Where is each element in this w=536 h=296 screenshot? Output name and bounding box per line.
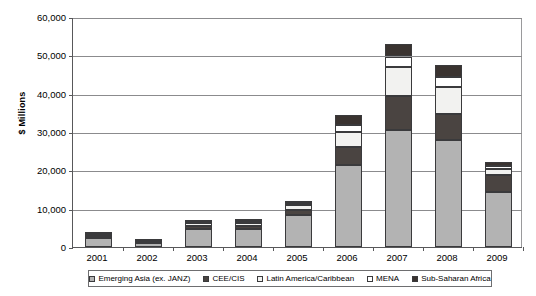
y-axis-tick-mark	[69, 56, 73, 57]
x-axis-tick-mark	[123, 247, 124, 251]
y-axis-tick-label: 30,000	[37, 127, 66, 138]
plot-area: 010,00020,00030,00040,00050,00060,000	[72, 18, 522, 248]
bar-2006	[335, 115, 362, 247]
bar-segment-emerging-asia	[235, 229, 262, 247]
bar-segment-latam	[335, 132, 362, 147]
bar-segment-mena	[485, 166, 512, 169]
bar-segment-emerging-asia	[435, 140, 462, 247]
bar-segment-emerging-asia	[385, 130, 412, 247]
legend-item-mena[interactable]: MENA	[367, 275, 399, 283]
bar-segment-mena	[385, 57, 412, 67]
bar-segment-latam	[485, 169, 512, 175]
bar-segment-ssa	[485, 162, 512, 166]
y-axis-tick-mark	[69, 18, 73, 19]
x-axis-label-2008: 2008	[422, 252, 472, 263]
x-axis-tick-mark	[423, 247, 424, 251]
bar-segment-mena	[285, 203, 312, 205]
x-axis-label-2004: 2004	[222, 252, 272, 263]
bar-segment-latam	[285, 205, 312, 210]
x-axis-label-2001: 2001	[72, 252, 122, 263]
legend-label-ssa: Sub-Saharan Africa	[421, 275, 490, 283]
bar-segment-mena	[335, 125, 362, 132]
y-axis-tick-label: 60,000	[37, 12, 66, 23]
x-axis-label-2006: 2006	[322, 252, 372, 263]
legend-item-latam[interactable]: Latin America/Caribbean	[257, 275, 354, 283]
gridline	[73, 18, 522, 19]
bar-segment-emerging-asia	[485, 192, 512, 247]
bar-segment-ssa	[235, 219, 262, 221]
bar-segment-mena	[435, 77, 462, 87]
bar-segment-latam	[85, 235, 112, 237]
legend-item-emerging-asia[interactable]: Emerging Asia (ex. JANZ)	[89, 275, 190, 283]
gridline	[73, 56, 522, 57]
bar-segment-cee-cis	[485, 175, 512, 192]
x-axis-tick-mark	[523, 247, 524, 251]
x-axis-tick-mark	[223, 247, 224, 251]
bar-segment-cee-cis	[285, 210, 312, 215]
y-axis-tick-label: 50,000	[37, 50, 66, 61]
y-axis-tick-label: 10,000	[37, 204, 66, 215]
bar-segment-cee-cis	[235, 226, 262, 230]
bar-segment-latam	[185, 223, 212, 226]
bar-segment-ssa	[385, 44, 412, 57]
bar-segment-ssa	[335, 115, 362, 125]
legend-label-emerging-asia: Emerging Asia (ex. JANZ)	[98, 275, 190, 283]
x-axis-tick-mark	[473, 247, 474, 251]
bar-segment-cee-cis	[185, 226, 212, 229]
chart-legend: Emerging Asia (ex. JANZ)CEE/CISLatin Ame…	[88, 270, 492, 287]
bar-segment-emerging-asia	[135, 243, 162, 247]
bar-segment-cee-cis	[335, 147, 362, 164]
y-axis-tick-mark	[69, 133, 73, 134]
x-axis-label-2007: 2007	[372, 252, 422, 263]
bar-segment-cee-cis	[435, 114, 462, 140]
bar-2004	[235, 220, 262, 247]
bar-2003	[185, 220, 212, 247]
bar-segment-emerging-asia	[335, 165, 362, 247]
bar-segment-latam	[435, 87, 462, 114]
legend-label-latam: Latin America/Caribbean	[266, 275, 354, 283]
x-axis-tick-mark	[273, 247, 274, 251]
y-axis-tick-label: 0	[61, 242, 66, 253]
stacked-bar-chart: $ Millions 010,00020,00030,00040,00050,0…	[0, 0, 536, 296]
bar-2002	[135, 240, 162, 247]
bar-2009	[485, 162, 512, 247]
bar-segment-latam	[235, 223, 262, 226]
x-axis-label-2005: 2005	[272, 252, 322, 263]
legend-item-ssa[interactable]: Sub-Saharan Africa	[412, 275, 490, 283]
bar-2005	[285, 201, 312, 247]
bar-2007	[385, 44, 412, 247]
bar-segment-cee-cis	[385, 96, 412, 131]
x-axis-label-2003: 2003	[172, 252, 222, 263]
x-axis-label-2009: 2009	[472, 252, 522, 263]
bar-segment-latam	[385, 67, 412, 96]
bar-2008	[435, 65, 462, 247]
y-axis-tick-label: 40,000	[37, 89, 66, 100]
legend-swatch-emerging-asia	[89, 276, 95, 282]
legend-swatch-mena	[367, 276, 373, 282]
bar-segment-emerging-asia	[285, 215, 312, 247]
bar-segment-emerging-asia	[185, 229, 212, 247]
bar-segment-emerging-asia	[85, 238, 112, 247]
bar-segment-ssa	[135, 239, 162, 241]
legend-swatch-ssa	[412, 276, 418, 282]
x-axis-tick-mark	[373, 247, 374, 251]
legend-swatch-cee-cis	[203, 276, 209, 282]
x-axis-tick-mark	[323, 247, 324, 251]
y-axis-tick-mark	[69, 171, 73, 172]
bar-2001	[85, 233, 112, 247]
x-axis-tick-mark	[173, 247, 174, 251]
y-axis-tick-mark	[69, 210, 73, 211]
bar-segment-ssa	[85, 232, 112, 234]
legend-item-cee-cis[interactable]: CEE/CIS	[203, 275, 244, 283]
legend-swatch-latam	[257, 276, 263, 282]
legend-label-cee-cis: CEE/CIS	[212, 275, 244, 283]
bar-segment-ssa	[285, 201, 312, 204]
y-axis-tick-label: 20,000	[37, 165, 66, 176]
bar-segment-ssa	[435, 65, 462, 77]
bar-segment-ssa	[185, 220, 212, 222]
y-axis-tick-mark	[69, 248, 73, 249]
y-axis-title: $ Millions	[17, 63, 27, 163]
x-axis-label-2002: 2002	[122, 252, 172, 263]
y-axis-tick-mark	[69, 95, 73, 96]
legend-label-mena: MENA	[376, 275, 399, 283]
